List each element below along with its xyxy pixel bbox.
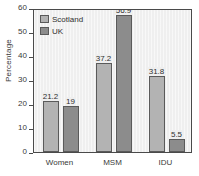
bar-msm-uk (116, 15, 132, 152)
y-tick-label: 50 (18, 27, 27, 36)
plot-area: 21.21937.256.931.85.5 Scotland UK (33, 9, 192, 153)
y-tick-label: 0 (23, 147, 27, 156)
bar-value-idu-scotland: 31.8 (148, 67, 166, 76)
x-category-idu: IDU (159, 158, 173, 167)
bar-idu-uk (169, 139, 185, 152)
uk-swatch-icon (40, 27, 49, 35)
bar-women-scotland (43, 101, 59, 152)
bar-msm-scotland (96, 63, 112, 152)
bar-value-women-uk: 19 (65, 97, 76, 106)
x-category-msm: MSM (103, 158, 122, 167)
y-tick-mark (29, 153, 33, 154)
legend: Scotland UK (40, 14, 83, 38)
legend-label-scotland: Scotland (52, 15, 83, 24)
y-tick-label: 10 (18, 123, 27, 132)
bar-women-uk (63, 106, 79, 152)
x-category-women: Women (46, 158, 73, 167)
bar-value-msm-scotland: 37.2 (95, 54, 113, 63)
bar-value-idu-uk: 5.5 (170, 130, 183, 139)
y-axis-ticks: 0102030405060 (0, 0, 33, 176)
bar-chart: Percentage 0102030405060 21.21937.256.93… (0, 0, 199, 176)
scotland-swatch-icon (40, 15, 49, 23)
y-tick-label: 20 (18, 99, 27, 108)
y-tick-label: 60 (18, 3, 27, 12)
bar-value-msm-uk: 56.9 (115, 9, 133, 15)
legend-item-scotland: Scotland (40, 14, 83, 24)
bar-idu-scotland (149, 76, 165, 152)
legend-label-uk: UK (52, 27, 63, 36)
bar-value-women-scotland: 21.2 (42, 92, 60, 101)
y-tick-label: 30 (18, 75, 27, 84)
legend-item-uk: UK (40, 26, 83, 36)
y-tick-label: 40 (18, 51, 27, 60)
